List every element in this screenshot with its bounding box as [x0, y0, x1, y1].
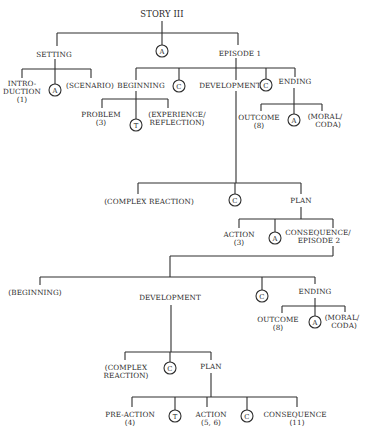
svg-text:A: A — [311, 319, 317, 327]
node-setting: SETTING — [36, 50, 72, 59]
node-plan: PLAN — [290, 196, 312, 205]
and-connector-icon: A — [269, 232, 281, 244]
node-complex-reaction-2-line2: REACTION) — [104, 371, 149, 380]
node-episode-1: EPISODE 1 — [219, 49, 262, 58]
node-ending: ENDING — [279, 77, 312, 86]
node-ending-2: ENDING — [299, 287, 332, 296]
node-moral-line2: CODA) — [315, 120, 341, 129]
node-action-2-line2: (5, 6) — [201, 418, 221, 427]
node-plan-2: PLAN — [200, 362, 222, 371]
svg-text:C: C — [259, 293, 264, 301]
node-outcome-2-line2: (8) — [273, 323, 284, 332]
node-consequence-line2: EPISODE 2 — [298, 236, 341, 245]
cause-connector-icon: C — [260, 79, 272, 91]
node-introduction-line3: (1) — [17, 95, 28, 104]
and-connector-icon: A — [288, 114, 300, 126]
cause-connector-icon: C — [173, 80, 185, 92]
svg-text:C: C — [176, 83, 181, 91]
node-action-line2: (3) — [234, 238, 245, 247]
node-development: DEVELOPMENT — [199, 81, 261, 90]
svg-text:A: A — [271, 235, 277, 243]
node-pre-action-line2: (4) — [125, 418, 136, 427]
cause-connector-icon: C — [164, 362, 176, 374]
node-beginning: BEGINNING — [117, 81, 165, 90]
node-development-2: DEVELOPMENT — [139, 293, 201, 302]
story-grammar-tree: STORY III A SETTING INTRO- DUCTION (1) A… — [0, 0, 368, 437]
then-connector-icon: T — [169, 410, 181, 422]
svg-text:A: A — [290, 117, 296, 125]
svg-text:C: C — [232, 197, 237, 205]
svg-text:T: T — [134, 122, 139, 130]
node-complex-reaction: (COMPLEX REACTION) — [104, 197, 194, 206]
and-connector-icon: A — [309, 316, 321, 328]
svg-text:C: C — [244, 413, 249, 421]
node-beginning-2: (BEGINNING) — [8, 288, 61, 297]
node-scenario: (SCENARIO) — [66, 81, 114, 90]
svg-text:C: C — [167, 365, 172, 373]
node-story: STORY III — [140, 9, 183, 19]
cause-connector-icon: C — [241, 410, 253, 422]
svg-text:A: A — [158, 48, 164, 56]
cause-connector-icon: C — [256, 290, 268, 302]
cause-connector-icon: C — [229, 194, 241, 206]
node-outcome-line2: (8) — [254, 121, 265, 130]
node-experience-line2: REFLECTION) — [150, 118, 205, 127]
svg-text:A: A — [51, 87, 57, 95]
node-moral-2-line2: CODA) — [331, 321, 357, 330]
svg-text:C: C — [263, 82, 268, 90]
and-connector-icon: A — [49, 84, 61, 96]
and-connector-icon: A — [156, 45, 168, 57]
then-connector-icon: T — [130, 119, 142, 131]
node-problem-line2: (3) — [96, 118, 107, 127]
svg-text:T: T — [173, 413, 178, 421]
node-consequence-2-line2: (11) — [289, 418, 304, 427]
